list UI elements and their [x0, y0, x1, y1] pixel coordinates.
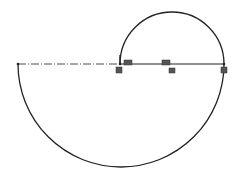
left-endpoint-point[interactable] [17, 63, 20, 66]
equal-glyph-mid-icon[interactable] [169, 68, 175, 73]
large-arc[interactable] [18, 64, 224, 167]
sketch-canvas[interactable] [0, 0, 241, 174]
coincident-glyph-right-icon[interactable] [221, 67, 227, 73]
sketch-svg [0, 0, 241, 174]
small-arc[interactable] [120, 12, 224, 64]
right-endpoint-point[interactable] [223, 63, 226, 66]
horizontal-glyph-inner-icon[interactable] [124, 60, 132, 65]
coincident-glyph-inner-icon[interactable] [116, 67, 122, 73]
horizontal-glyph-mid-icon[interactable] [162, 60, 170, 65]
inner-endpoint-point[interactable] [119, 63, 122, 66]
